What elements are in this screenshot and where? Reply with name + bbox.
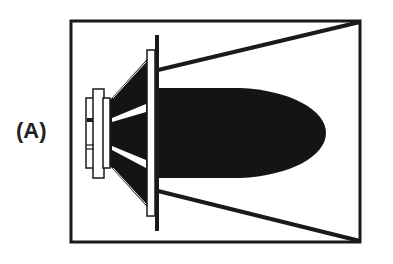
speaker-cone [110, 58, 148, 208]
driver-frame-flange [147, 50, 155, 216]
radiation-lobe [156, 88, 326, 178]
diagram-figure: (A) [0, 0, 393, 264]
baffle-line [155, 35, 159, 231]
magnet-assembly [86, 89, 110, 178]
